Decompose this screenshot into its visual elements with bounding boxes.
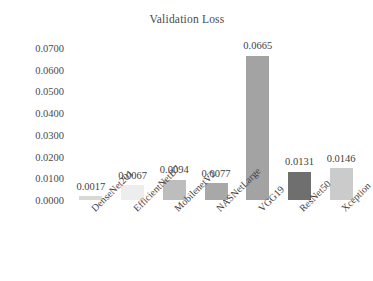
x-axis-label-cell: NASNetLarge: [195, 202, 237, 276]
x-axis-label-cell: MobilenetV2: [153, 202, 195, 276]
y-axis-tick-label: 0.0100: [18, 173, 64, 184]
bar-column: 0.0077: [195, 2, 237, 200]
y-axis-tick-label: 0.0000: [18, 195, 64, 206]
x-axis-category-labels: DenseNet201EfficientNetB7MobilenetV2NASN…: [70, 202, 362, 276]
bar-column: 0.0067: [112, 2, 154, 200]
y-axis-tick-label: 0.0600: [18, 64, 64, 75]
y-axis-tick-label: 0.0400: [18, 108, 64, 119]
x-axis-label-cell: Xception: [320, 202, 362, 276]
bar-series: 0.00170.00670.00940.00770.06650.01310.01…: [70, 2, 362, 200]
y-axis-tick-label: 0.0700: [18, 43, 64, 54]
y-axis-tick-label: 0.0500: [18, 86, 64, 97]
x-axis-label-cell: DenseNet201: [70, 202, 112, 276]
y-axis-tick-label: 0.0300: [18, 129, 64, 140]
x-axis-label-cell: ResNet50: [279, 202, 321, 276]
y-axis-tick-label: 0.0200: [18, 151, 64, 162]
bar-column: 0.0017: [70, 2, 112, 200]
x-axis-label-cell: VGG19: [237, 202, 279, 276]
bar-value-label: 0.0665: [243, 41, 272, 52]
bar-value-label: 0.0146: [327, 154, 356, 165]
bar-column: 0.0146: [320, 2, 362, 200]
bar-value-label: 0.0017: [76, 182, 105, 193]
x-axis-label-cell: EfficientNetB7: [112, 202, 154, 276]
bar-column: 0.0131: [279, 2, 321, 200]
bar-value-label: 0.0131: [285, 157, 314, 168]
